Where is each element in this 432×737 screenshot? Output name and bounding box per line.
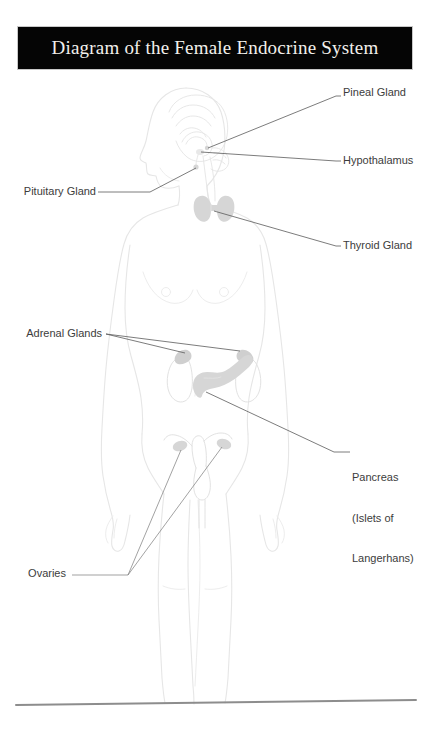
label-hypothalamus: Hypothalamus — [343, 154, 413, 168]
leader-adrenal-left — [106, 334, 185, 353]
label-ovaries: Ovaries — [14, 567, 66, 581]
label-thyroid-gland: Thyroid Gland — [343, 239, 412, 253]
leader-adrenal-right — [106, 334, 240, 351]
diagram-page: Diagram of the Female Endocrine System .… — [0, 0, 432, 737]
endocrine-system-illustration: .body-ln { fill:none; stroke:#e6e6e6; st… — [0, 0, 432, 737]
ovary-right — [215, 437, 232, 451]
leader-ovary-left — [72, 450, 181, 575]
label-pineal-gland: Pineal Gland — [343, 86, 406, 100]
pancreas — [193, 355, 253, 398]
ground-line — [16, 700, 416, 705]
leader-ovary-right — [128, 447, 222, 575]
thyroid-gland — [194, 196, 235, 222]
label-pancreas-line1: Pancreas — [352, 471, 414, 485]
brain-illustration — [169, 95, 229, 201]
label-pancreas-line3: Langerhans) — [352, 552, 414, 566]
ovary-left — [171, 439, 188, 453]
kidneys-adrenals-pancreas — [167, 350, 260, 402]
label-pancreas-line2: (Islets of — [352, 512, 414, 526]
leader-hypothalamus — [201, 152, 336, 161]
body-outline — [101, 88, 288, 704]
label-adrenal-glands: Adrenal Glands — [14, 327, 102, 341]
leader-lines — [72, 96, 350, 575]
label-pancreas: Pancreas (Islets of Langerhans) — [352, 444, 414, 593]
leader-thyroid — [214, 211, 336, 246]
label-pituitary-gland: Pituitary Gland — [14, 185, 96, 199]
